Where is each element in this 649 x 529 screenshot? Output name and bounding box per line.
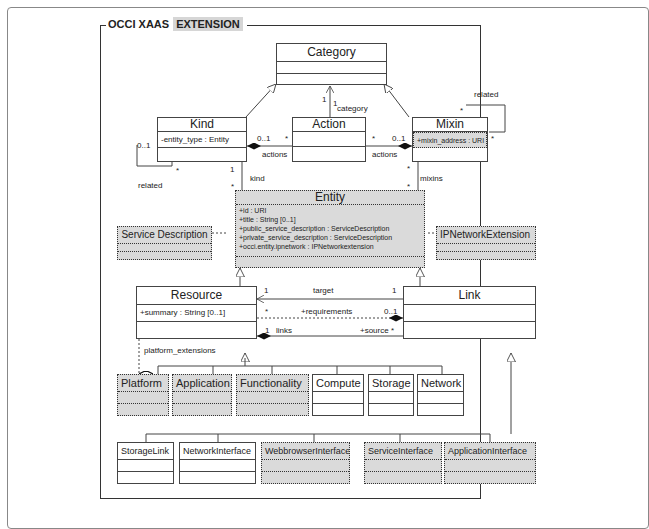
class-name: ServiceInterface bbox=[365, 443, 441, 460]
attributes-section bbox=[404, 305, 535, 322]
attributes-section bbox=[118, 244, 211, 252]
operations-section bbox=[118, 252, 211, 259]
operations-section bbox=[262, 472, 349, 483]
category-mult-label: 1 bbox=[322, 95, 326, 104]
attributes-section bbox=[173, 392, 231, 404]
operations-section bbox=[369, 404, 413, 415]
class-name: Storage bbox=[369, 375, 413, 392]
class-entity: Entity +id : URI +title : String [0..1] … bbox=[235, 190, 425, 268]
class-webbrowserinterface: WebbrowserInterface bbox=[261, 442, 350, 484]
target-mult-left: 1 bbox=[264, 286, 268, 295]
attribute: +id : URI bbox=[239, 206, 421, 215]
attributes-section: +id : URI +title : String [0..1] +public… bbox=[236, 205, 424, 257]
operations-section bbox=[236, 257, 424, 267]
class-network: Network bbox=[417, 374, 464, 416]
class-name: StorageLink bbox=[118, 443, 173, 460]
attributes-section bbox=[180, 460, 255, 472]
class-name: Mixin bbox=[413, 118, 487, 132]
class-serviceinterface: ServiceInterface bbox=[364, 442, 442, 484]
class-name: Link bbox=[404, 287, 535, 305]
attributes-section bbox=[118, 460, 173, 472]
class-platform: Platform bbox=[117, 374, 169, 416]
class-name: WebbrowserInterface bbox=[262, 443, 349, 460]
attributes-section bbox=[437, 244, 535, 252]
class-storage: Storage bbox=[368, 374, 414, 416]
operations-section bbox=[180, 472, 255, 483]
class-name: Service Description bbox=[118, 227, 211, 244]
class-compute: Compute bbox=[312, 374, 364, 416]
mixin-actions-star: * bbox=[372, 134, 375, 143]
category-role-label: category bbox=[337, 104, 368, 113]
attribute: +private_service_description : ServiceDe… bbox=[239, 233, 421, 242]
kind-related-star: * bbox=[176, 166, 179, 175]
links-mult: 1 bbox=[265, 326, 269, 335]
attributes-section bbox=[237, 392, 308, 404]
class-name: Entity bbox=[236, 191, 424, 205]
class-ipnetwork-extension: IPNetworkExtension bbox=[436, 226, 536, 260]
attributes-section bbox=[418, 392, 463, 404]
class-name: Network bbox=[418, 375, 463, 392]
class-action: Action bbox=[292, 117, 366, 162]
class-name: Kind bbox=[158, 118, 246, 132]
mixin-related-star: * bbox=[460, 106, 463, 115]
class-name: Action bbox=[293, 118, 365, 132]
operations-section bbox=[137, 322, 256, 338]
class-functionality: Functionality bbox=[236, 374, 309, 416]
mixin-entity-star: * bbox=[407, 164, 410, 173]
class-applicationinterface: ApplicationInterface bbox=[444, 442, 536, 484]
mixin-actions-role: actions bbox=[372, 150, 397, 159]
attributes-section bbox=[365, 460, 441, 472]
class-name: IPNetworkExtension bbox=[437, 227, 535, 244]
operations-section bbox=[173, 404, 231, 415]
kind-entity-star: * bbox=[231, 182, 234, 191]
class-name: Compute bbox=[313, 375, 363, 392]
attributes-section bbox=[262, 460, 349, 472]
attributes-section bbox=[445, 460, 535, 472]
mixin-actions-mult: 0..1 bbox=[392, 134, 405, 143]
class-storagelink: StorageLink bbox=[117, 442, 174, 484]
kind-entity-role: kind bbox=[250, 174, 265, 183]
kind-related-mult: 0..1 bbox=[137, 141, 150, 150]
operations-section bbox=[293, 147, 365, 161]
attribute: +title : String [0..1] bbox=[239, 215, 421, 224]
kind-actions-role: actions bbox=[262, 150, 287, 159]
class-kind: Kind -entity_type : Entity bbox=[157, 117, 247, 162]
operations-section bbox=[437, 252, 535, 259]
attributes-section bbox=[313, 392, 363, 404]
operations-section bbox=[418, 404, 463, 415]
attributes-section bbox=[369, 392, 413, 404]
attributes-section bbox=[293, 132, 365, 147]
operations-section bbox=[118, 472, 173, 483]
attributes-section bbox=[118, 392, 168, 404]
attributes-section bbox=[277, 62, 386, 74]
attribute: +public_service_description : ServiceDes… bbox=[239, 224, 421, 233]
class-name: ApplicationInterface bbox=[445, 443, 535, 460]
mixin-entity-star: * bbox=[407, 182, 410, 191]
mixin-related-role: related bbox=[474, 90, 498, 99]
class-application: Application bbox=[172, 374, 232, 416]
operations-section bbox=[365, 472, 441, 483]
class-name: Resource bbox=[137, 287, 256, 305]
class-name: Platform bbox=[118, 375, 168, 392]
attribute: +summary : String [0..1] bbox=[137, 305, 256, 322]
class-name: Application bbox=[173, 375, 231, 392]
operations-section bbox=[413, 148, 487, 162]
mixin-related-star: * bbox=[491, 134, 494, 143]
class-mixin: Mixin +mixin_address : URI bbox=[412, 117, 488, 162]
class-networkinterface: NetworkInterface bbox=[179, 442, 256, 484]
operations-section bbox=[118, 404, 168, 415]
platform-extensions-role: platform_extensions bbox=[144, 346, 216, 355]
kind-actions-star: * bbox=[285, 134, 288, 143]
class-name: Functionality bbox=[237, 375, 308, 392]
mixin-entity-role: mixins bbox=[420, 174, 443, 183]
links-role: links bbox=[276, 326, 292, 335]
attribute: -entity_type : Entity bbox=[158, 132, 246, 148]
class-name: NetworkInterface bbox=[180, 443, 255, 460]
kind-related-role: related bbox=[138, 181, 162, 190]
class-category: Category bbox=[276, 43, 387, 85]
class-name: Category bbox=[277, 44, 386, 62]
requirements-role: +requirements bbox=[301, 307, 352, 316]
class-service-description: Service Description bbox=[117, 226, 212, 260]
source-role: +source * bbox=[360, 326, 394, 335]
attribute: +mixin_address : URI bbox=[413, 132, 487, 148]
